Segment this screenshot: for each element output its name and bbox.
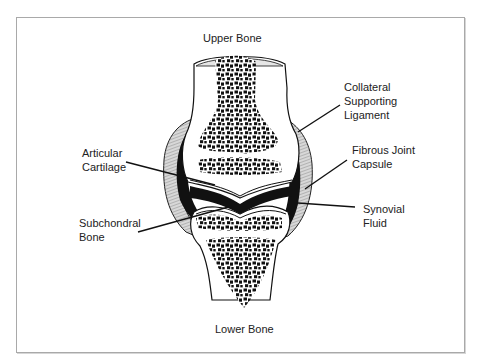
lower-bone bbox=[191, 206, 290, 308]
label-subchondral-bone: Subchondral Bone bbox=[79, 216, 141, 244]
leader-line-collateral-ligament bbox=[298, 105, 340, 132]
label-fibrous-capsule: Fibrous Joint Capsule bbox=[352, 143, 415, 171]
knee-joint-illustration bbox=[0, 0, 479, 364]
label-articular-cartilage: Articular Cartilage bbox=[82, 146, 126, 174]
label-synovial-fluid: Synovial Fluid bbox=[363, 202, 405, 230]
label-upper-bone: Upper Bone bbox=[203, 31, 262, 45]
label-collateral-ligament: Collateral Supporting Ligament bbox=[344, 80, 397, 122]
label-lower-bone: Lower Bone bbox=[215, 322, 274, 336]
upper-bone bbox=[182, 56, 299, 198]
